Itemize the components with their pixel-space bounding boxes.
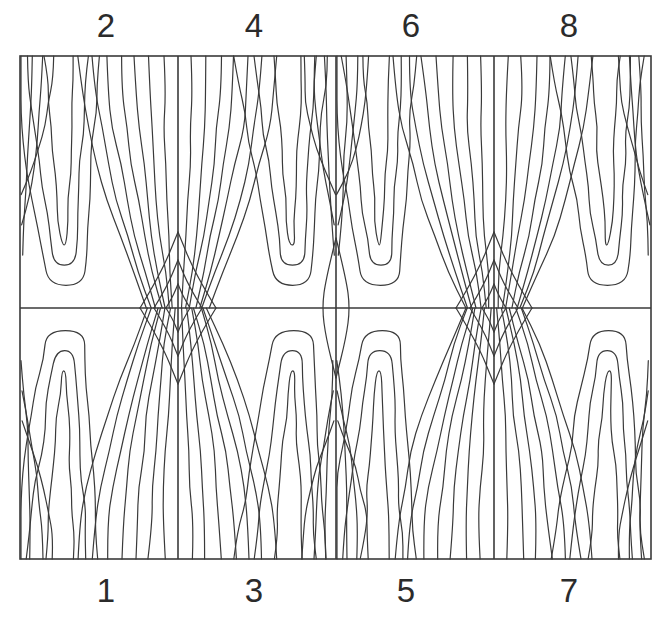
grain-sweep-line: [209, 56, 276, 308]
grain-loop: [570, 351, 633, 559]
grain-sweep-line: [196, 56, 234, 308]
grain-sweep-line: [438, 308, 475, 559]
panel-label-1: 1: [86, 574, 126, 607]
grain-sweep-line: [498, 56, 508, 308]
grain-sweep-line: [187, 308, 205, 559]
diamond-line: [154, 260, 178, 308]
grain-loop: [28, 56, 89, 265]
grain-loop: [360, 371, 389, 559]
grain-side-line: [21, 56, 54, 195]
grain-sweep-line: [122, 308, 161, 559]
grain-sweep-line: [182, 56, 192, 308]
grain-sweep-line: [501, 308, 523, 559]
grain-side-line: [338, 56, 347, 255]
panel-label-2: 2: [86, 9, 126, 42]
grain-loop: [571, 56, 631, 265]
grain-loop: [26, 351, 85, 559]
grain-side-line: [629, 391, 648, 559]
grain-loop: [254, 351, 316, 559]
grain-side-line: [640, 361, 648, 559]
grain-sweep-line: [408, 308, 468, 559]
grain-loop: [254, 56, 316, 265]
panel-label-8: 8: [549, 9, 589, 42]
panel-label-3: 3: [234, 574, 274, 607]
grain-loop: [274, 371, 302, 559]
grain-side-line: [639, 56, 648, 255]
panel-label-5: 5: [386, 574, 426, 607]
grain-sweep-line: [192, 308, 222, 559]
grain-sweep-line: [512, 56, 550, 308]
grain-loop: [21, 56, 99, 285]
grain-sweep-line: [395, 308, 466, 559]
grain-loop: [274, 56, 301, 245]
grain-sweep-line: [193, 308, 236, 559]
panel-label-4: 4: [234, 9, 274, 42]
grain-side-line: [337, 361, 347, 559]
grain-sweep-line: [436, 56, 476, 308]
grain-sweep-line: [201, 308, 249, 559]
grain-loop: [21, 331, 98, 559]
grain-side-line: [324, 56, 334, 255]
grain-side-line: [314, 56, 334, 225]
grain-sweep-line: [122, 56, 163, 308]
grain-sweep-line: [107, 56, 155, 308]
woodgrain-panel-diagram: [0, 0, 654, 618]
grain-sweep-line: [206, 308, 276, 559]
panel-frame: [20, 56, 651, 559]
grain-sweep-line: [522, 56, 593, 308]
grain-side-line: [629, 56, 650, 225]
grain-sweep-line: [467, 56, 486, 308]
panel-label-6: 6: [391, 9, 431, 42]
grain-loop: [46, 371, 74, 559]
grain-sweep-line: [134, 56, 165, 308]
grain-loop: [591, 56, 620, 245]
panel-label-7: 7: [549, 574, 589, 607]
grain-loop: [588, 371, 620, 559]
grain-loop: [343, 351, 403, 559]
grain-side-line: [325, 361, 333, 559]
grain-sweep-line: [521, 308, 581, 559]
